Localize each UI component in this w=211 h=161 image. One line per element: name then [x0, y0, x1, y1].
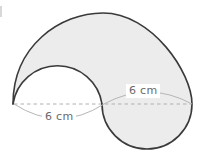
composite-shape-fill [13, 13, 192, 149]
dimension-label-upper-right: 6 cm [126, 84, 160, 98]
geometry-figure: 6 cm 6 cm [0, 0, 211, 161]
figure-canvas [0, 0, 211, 161]
dimension-label-lower-left: 6 cm [42, 110, 76, 124]
